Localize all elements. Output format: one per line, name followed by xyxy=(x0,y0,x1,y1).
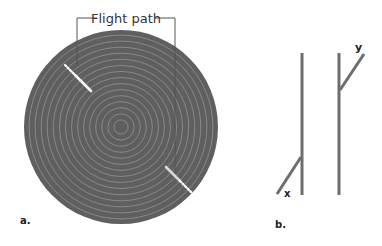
panel-b-label: b. xyxy=(275,219,286,230)
figure: Flight path a. x y b. xyxy=(0,0,382,246)
branch-line-y xyxy=(340,54,364,90)
panel-a-label: a. xyxy=(20,215,31,226)
panel-a: Flight path a. xyxy=(20,11,218,226)
flight-path-label: Flight path xyxy=(91,11,161,26)
label-y: y xyxy=(355,41,362,54)
label-x: x xyxy=(284,188,291,199)
panel-b xyxy=(277,53,364,195)
